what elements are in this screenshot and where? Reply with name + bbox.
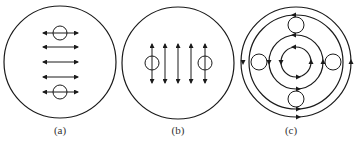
panel-b [122, 7, 234, 119]
caption-a: (a) [40, 124, 80, 136]
arrowhead-icon [296, 115, 301, 120]
ring-3 [269, 35, 323, 89]
vertical-arrows [152, 44, 205, 83]
arrowhead-icon [349, 59, 354, 64]
arrowhead-icon [279, 60, 284, 65]
small-circle [325, 54, 341, 70]
panel-c [241, 7, 354, 120]
arrowhead-icon [291, 45, 296, 50]
arrowhead-icon [296, 75, 301, 80]
horizontal-arrows [43, 33, 78, 92]
small-circle [288, 91, 304, 107]
arrowhead-icon [309, 59, 314, 64]
small-circle [251, 54, 267, 70]
small-circle [288, 17, 304, 33]
caption-c: (c) [271, 124, 311, 136]
ring-4 [281, 47, 311, 77]
caption-b: (b) [158, 124, 198, 136]
panel-a [4, 6, 116, 118]
